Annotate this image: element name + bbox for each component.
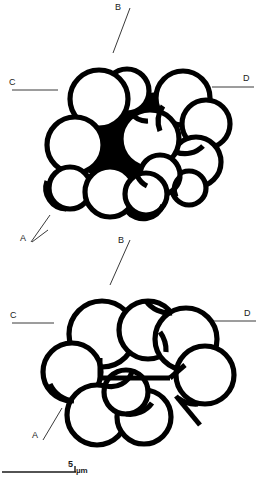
scale-bar-unit: µm [76,466,88,475]
section-label-a-lower: A [32,431,38,440]
figure-container: .cell { fill:#ffffff; stroke:#000000; st… [0,0,272,477]
diagram-canvas: .cell { fill:#ffffff; stroke:#000000; st… [0,0,272,477]
section-label-b-upper: B [115,3,121,12]
scale-bar-graphic [2,466,76,472]
section-label-c-upper: C [9,78,16,87]
leader-b-lower [110,240,130,285]
lower-cell-group [43,301,234,445]
section-label-b-lower: B [118,236,124,245]
section-label-c-lower: C [10,311,17,320]
leader-b-upper [113,8,130,53]
upper-cell-group [47,69,230,217]
leader-a-mid [32,230,48,242]
leader-a-lower [43,408,62,440]
scale-bar-value: 5 [68,459,73,469]
section-label-d-lower: D [244,309,251,318]
lower-section-diagram [43,301,234,445]
section-label-a-upper: A [20,234,26,243]
section-label-d-upper: D [243,74,250,83]
upper-section-diagram [46,69,230,219]
leader-a-upper [31,215,50,242]
